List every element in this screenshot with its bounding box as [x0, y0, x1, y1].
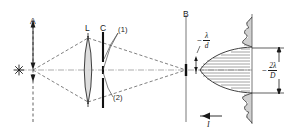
diagram-canvas	[0, 0, 295, 140]
plane-a-extent-arrow	[31, 20, 36, 82]
intensity-axis-label: I	[207, 121, 210, 129]
plane-b-label: B	[183, 10, 189, 19]
angular-width-numerator: λ	[204, 32, 209, 40]
tilde-symbol-2: ~	[262, 67, 267, 75]
airy-width-denominator: D	[269, 71, 276, 79]
lens-element	[84, 33, 92, 107]
point-source-star-icon	[14, 65, 24, 75]
callout-leaders	[103, 33, 118, 97]
angular-width-denominator: d	[204, 41, 210, 49]
intensity-axis-arrow	[200, 113, 222, 120]
airy-width-annotation: ~ 2λ D	[262, 62, 277, 79]
diffraction-lower-envelope	[243, 93, 252, 123]
diffraction-upper-envelope	[243, 17, 252, 47]
aperture-label: C	[100, 24, 106, 33]
angular-width-annotation: ~ λ d	[197, 32, 210, 49]
airy-width-numerator: 2λ	[268, 62, 277, 70]
ray-callout-2: (2)	[113, 94, 123, 102]
lens-label: L	[85, 24, 90, 33]
diffraction-figure: A L C B (1) (2) ~ λ d ~ 2λ D I	[0, 0, 295, 140]
tilde-symbol: ~	[197, 37, 202, 45]
ray-callout-1: (1)	[118, 26, 128, 34]
diffraction-central-lobe-hatch	[200, 49, 250, 91]
plane-a-label: A	[30, 17, 36, 26]
